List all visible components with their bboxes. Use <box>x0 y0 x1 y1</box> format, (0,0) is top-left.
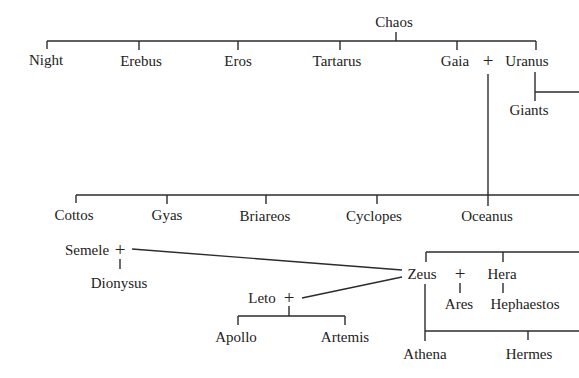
node-hermes: Hermes <box>506 347 553 362</box>
node-eros: Eros <box>224 54 252 69</box>
node-night: Night <box>29 53 63 68</box>
node-erebus: Erebus <box>120 54 162 69</box>
union-plus-icon-zeus-hera: + <box>455 264 466 283</box>
node-uranus: Uranus <box>505 54 548 69</box>
node-athena: Athena <box>403 347 446 362</box>
node-oceanus: Oceanus <box>461 209 513 224</box>
node-semele: Semele <box>65 243 109 258</box>
node-artemis: Artemis <box>321 330 369 345</box>
node-gyas: Gyas <box>152 208 183 223</box>
node-dionysus: Dionysus <box>91 276 148 291</box>
node-chaos: Chaos <box>375 15 413 30</box>
union-plus-icon-gaia-uranus: + <box>483 51 494 70</box>
semele-zeus-line <box>132 249 402 270</box>
node-briareos: Briareos <box>240 209 291 224</box>
node-hephaestos: Hephaestos <box>490 297 559 312</box>
union-plus-icon-semele-zeus: + <box>115 240 126 259</box>
node-giants: Giants <box>509 103 548 118</box>
node-tartarus: Tartarus <box>313 54 362 69</box>
node-cottos: Cottos <box>54 208 93 223</box>
union-plus-icon-leto-zeus: + <box>284 288 295 307</box>
node-ares: Ares <box>445 297 473 312</box>
node-cyclopes: Cyclopes <box>346 209 402 224</box>
leto-zeus-line <box>302 277 402 298</box>
node-hera: Hera <box>487 267 516 282</box>
node-leto: Leto <box>248 291 276 306</box>
node-apollo: Apollo <box>215 330 257 345</box>
node-zeus: Zeus <box>407 267 436 282</box>
node-gaia: Gaia <box>441 54 469 69</box>
